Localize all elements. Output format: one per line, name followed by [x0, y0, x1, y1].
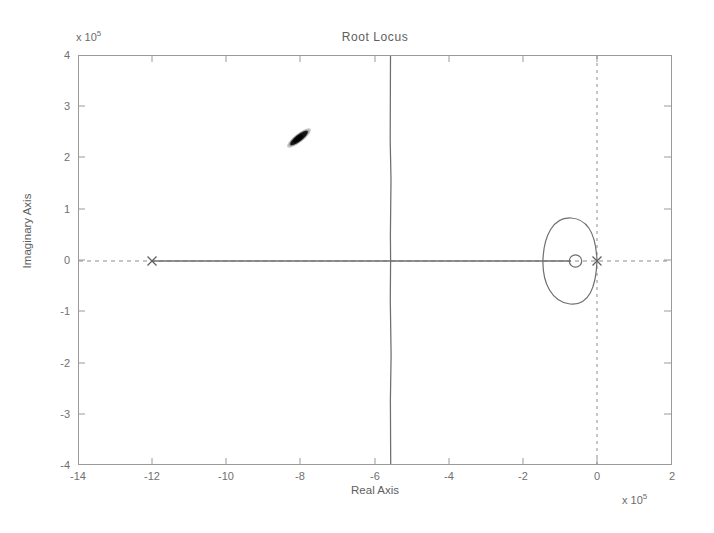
plot-canvas — [0, 0, 714, 533]
axes-frame — [79, 56, 672, 465]
root-locus-figure: Root Locus x 105 x 105 4 3 2 1 0 -1 -2 -… — [0, 0, 714, 533]
